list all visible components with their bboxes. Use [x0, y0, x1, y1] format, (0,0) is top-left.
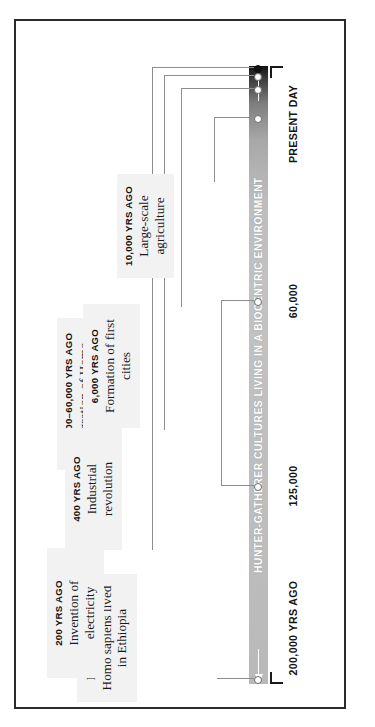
timeline-bar-label: HUNTER-GATHERER CULTURES LIVING IN A BIO… [249, 66, 268, 684]
connector-agriculture-v [214, 117, 254, 118]
callout-electricity-date: 200 YRS AGO [53, 555, 64, 671]
axis-tick-end-cap [270, 66, 272, 78]
callout-electricity: 200 YRS AGO Invention of electricity [47, 548, 104, 678]
timeline-axis [276, 66, 277, 684]
callout-industrial-revolution: 400 YRS AGO Industrial revolution [65, 428, 122, 550]
marker-industrial-revolution [254, 73, 262, 81]
callout-first-cities: 6,000 YRS AGO Formation of first cities [83, 304, 140, 428]
callout-agriculture: 10,000 YRS AGO Large-scale agriculture [117, 174, 174, 278]
marker-earliest-homo-sapiens [254, 676, 262, 684]
marker-agriculture [254, 115, 262, 123]
figure-page: HUNTER-GATHERER CULTURES LIVING IN A BIO… [0, 0, 375, 727]
scale-label-present-day: PRESENT DAY [287, 85, 299, 163]
connector-first-cities-h [181, 89, 182, 307]
connector-agriculture-h [214, 118, 215, 182]
scale-label-125000: 125,000 [287, 466, 299, 507]
connector-migration-span [221, 300, 222, 486]
figure-caption: FIGURE 6.1 Our biocentric roots (modifie… [367, 723, 374, 727]
connector-migration-right [221, 300, 254, 301]
marker-migration-end [254, 298, 262, 306]
connector-first-cities-v [181, 88, 254, 89]
marker-migration-start [254, 483, 262, 491]
timeline-stage: HUNTER-GATHERER CULTURES LIVING IN A BIO… [21, 26, 339, 702]
callout-electricity-body: Invention of electricity [66, 555, 97, 671]
timeline-bar: HUNTER-GATHERER CULTURES LIVING IN A BIO… [249, 66, 268, 684]
scale-label-60000: 60,000 [287, 284, 299, 319]
connector-industrial-revolution-v [164, 75, 254, 76]
connector-electricity-v [152, 67, 254, 68]
scale-label-200000: 200,000 YRS AGO [287, 581, 299, 676]
marker-electricity [254, 65, 262, 73]
connector-earliest-homo-sapiens [217, 678, 254, 679]
callout-agriculture-date: 10,000 YRS AGO [123, 181, 134, 271]
rotated-stage-wrapper: HUNTER-GATHERER CULTURES LIVING IN A BIO… [21, 26, 339, 702]
axis-tick-start-cap [270, 672, 272, 684]
connector-electricity-h [152, 68, 153, 550]
callout-industrial-revolution-date: 400 YRS AGO [71, 435, 82, 543]
callout-first-cities-date: 6,000 YRS AGO [89, 311, 100, 421]
axis-tick-start [270, 682, 283, 684]
figure-frame: HUNTER-GATHERER CULTURES LIVING IN A BIO… [14, 19, 346, 709]
callout-industrial-revolution-body: Industrial revolution [84, 435, 115, 543]
marker-first-cities [254, 86, 262, 94]
axis-tick-end [270, 66, 283, 68]
callout-first-cities-body: Formation of first cities [102, 311, 133, 421]
callout-agriculture-body: Large-scale agriculture [136, 181, 167, 271]
connector-migration-left [221, 485, 254, 486]
